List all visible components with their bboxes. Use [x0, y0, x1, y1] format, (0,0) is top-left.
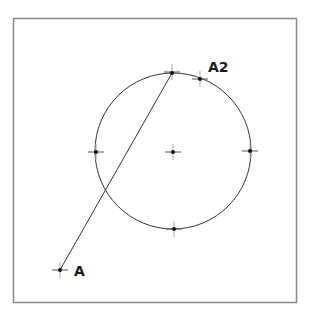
point-center[interactable] — [165, 144, 181, 160]
point-a2[interactable] — [192, 71, 208, 87]
segment-a-to-top — [60, 73, 172, 270]
point-bottom[interactable] — [166, 221, 182, 237]
point-left[interactable] — [88, 144, 104, 160]
point-a[interactable] — [52, 262, 68, 278]
geometry-diagram: A2 A — [0, 0, 313, 319]
point-right[interactable] — [242, 143, 258, 159]
label-a2: A2 — [208, 59, 229, 75]
label-a: A — [74, 263, 85, 279]
point-top[interactable] — [164, 64, 180, 80]
drawing-frame — [14, 19, 297, 303]
